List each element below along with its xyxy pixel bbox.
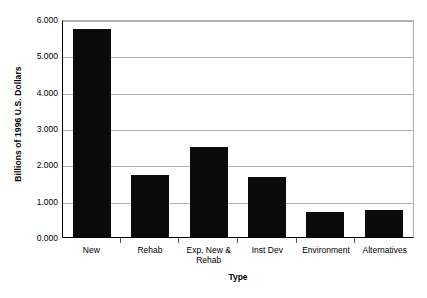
x-axis-title: Type (62, 272, 414, 282)
bar[interactable] (365, 210, 403, 237)
y-axis-tick-labels: 0.0001.0002.0003.0004.0005.0006.000 (20, 0, 58, 248)
x-axis-tick (355, 238, 414, 243)
y-axis-tick-label: 3.000 (20, 124, 58, 134)
bars-layer (63, 21, 413, 237)
y-axis-tick-label: 4.000 (20, 88, 58, 98)
x-axis-tick (179, 238, 238, 243)
bar-slot (238, 21, 296, 237)
bar-slot (296, 21, 354, 237)
bar-slot (121, 21, 179, 237)
x-axis-tick-label: Inst Dev (238, 245, 297, 265)
bar-chart: Billions of 1996 U.S. Dollars 0.0001.000… (0, 0, 427, 298)
x-axis-tick-labels: NewRehabExp, New &RehabInst DevEnvironme… (62, 245, 414, 265)
x-axis-tick-label: Rehab (121, 245, 180, 265)
bar[interactable] (306, 212, 344, 237)
y-axis-tick-label: 5.000 (20, 51, 58, 61)
bar-slot (180, 21, 238, 237)
bar[interactable] (73, 29, 111, 237)
x-axis-tick-label: Alternatives (355, 245, 414, 265)
x-axis-tick (297, 238, 356, 243)
bar[interactable] (131, 175, 169, 237)
bar-slot (63, 21, 121, 237)
x-axis-tick-label: New (62, 245, 121, 265)
x-axis-tick-label: Exp, New &Rehab (179, 245, 238, 265)
y-axis-tick-label: 2.000 (20, 160, 58, 170)
x-axis-tick (238, 238, 297, 243)
y-axis-tick-label: 6.000 (20, 15, 58, 25)
bar[interactable] (190, 147, 228, 237)
y-axis-tick-label: 0.000 (20, 233, 58, 243)
bar-slot (355, 21, 413, 237)
x-axis-tick (62, 238, 121, 243)
x-axis-tick (121, 238, 180, 243)
y-axis-tick-label: 1.000 (20, 197, 58, 207)
plot-area (62, 20, 414, 238)
bar[interactable] (248, 177, 286, 237)
x-axis-ticks (62, 238, 414, 243)
x-axis-tick-label: Environment (297, 245, 356, 265)
